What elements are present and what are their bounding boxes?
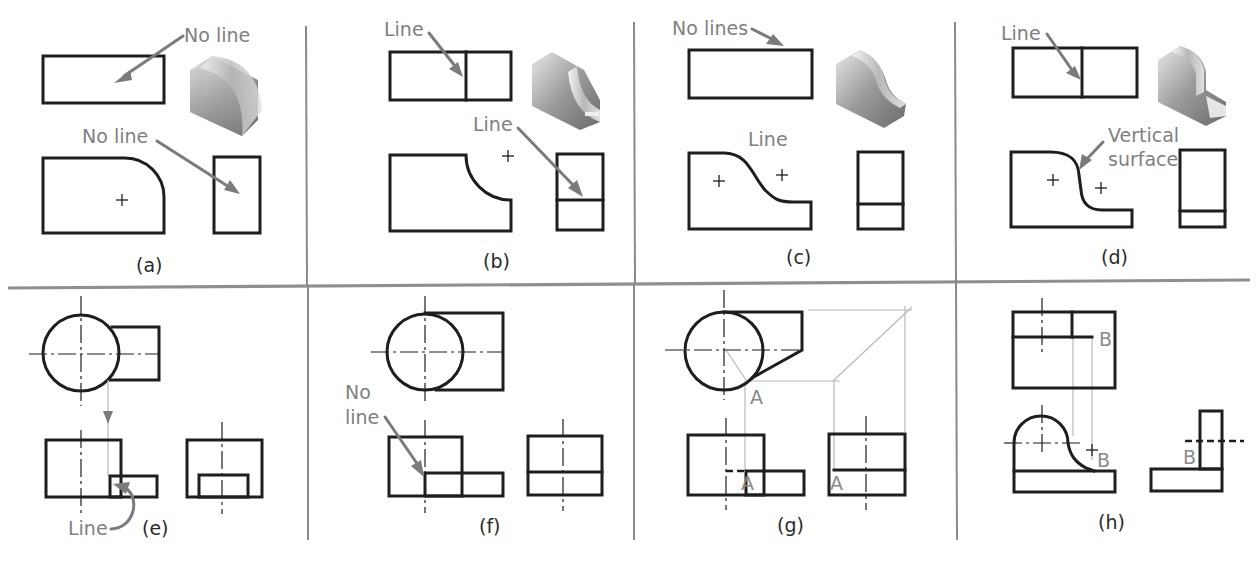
annotation-no-line: No line: [184, 24, 250, 46]
point-label-b: B: [1183, 446, 1196, 468]
leader-arrow: [1079, 142, 1103, 170]
side-view: [528, 436, 602, 495]
panel-e: Line (e): [29, 296, 262, 539]
leader-arrow: [1047, 34, 1081, 80]
front-view: [43, 158, 164, 233]
side-view: [214, 157, 260, 233]
side-view: [1180, 150, 1225, 227]
panel-c: No lines Line (c): [672, 17, 906, 268]
annotation-line: Line: [1001, 22, 1041, 44]
isometric-model: [836, 50, 906, 128]
leader-arrow: [114, 36, 183, 83]
annotation-no-line: No line: [82, 125, 148, 147]
top-view: [689, 50, 812, 98]
front-view-base: [746, 471, 804, 495]
annotation-surface: surface: [1108, 148, 1178, 170]
point-label-b: B: [1099, 328, 1112, 350]
top-view: [1013, 312, 1115, 388]
side-view-base: [1151, 469, 1222, 491]
annotation-no-lines: No lines: [672, 17, 748, 39]
annotation-line: Line: [473, 113, 513, 135]
horizontal-divider: [8, 280, 1250, 288]
projection-arrow: [103, 411, 113, 424]
panel-h: B B B (h): [1004, 298, 1244, 533]
center-mark: [1095, 182, 1107, 194]
annotation-line: line: [345, 406, 379, 428]
vertical-divider-2: [634, 22, 635, 283]
side-view-tab: [199, 475, 248, 497]
annotation-vertical: Vertical: [1108, 124, 1179, 146]
tangent-surfaces-figure: No line No line (a) Line Line: [0, 0, 1258, 570]
vertical-divider-3: [955, 22, 956, 281]
panel-caption: (e): [142, 517, 169, 539]
isometric-model: [532, 52, 600, 130]
curved-leader-arrow: [111, 482, 134, 529]
center-mark: [116, 194, 128, 206]
center-mark: [1047, 174, 1059, 186]
isometric-model: [1158, 46, 1226, 126]
leader-arrow: [518, 128, 583, 197]
front-view: [689, 153, 811, 229]
vertical-divider-1: [306, 26, 307, 285]
panel-caption: (f): [479, 515, 501, 537]
center-mark: [502, 150, 514, 162]
front-view-base: [1014, 471, 1115, 492]
top-view: [43, 56, 164, 103]
panel-caption: (a): [136, 254, 162, 276]
center-mark: [776, 169, 788, 181]
annotation-line: Line: [384, 18, 424, 40]
point-label-a: A: [750, 386, 763, 408]
panel-g: A A A (g): [665, 290, 912, 536]
point-label-a: A: [741, 472, 754, 494]
annotation-no: No: [345, 381, 371, 403]
panel-f: No line (f): [345, 296, 602, 537]
panel-caption: (d): [1101, 246, 1128, 268]
panel-caption: (g): [777, 514, 804, 536]
projection-lines: [1073, 338, 1092, 460]
front-view-base: [425, 473, 503, 496]
panel-d: Line Vertical surface (d): [1001, 22, 1226, 268]
panel-caption: (h): [1098, 511, 1125, 533]
annotation-line: Line: [68, 517, 108, 539]
panel-caption: (c): [786, 246, 811, 268]
leader-arrow: [752, 29, 784, 46]
point-label-a: A: [830, 472, 843, 494]
panel-caption: (b): [483, 250, 510, 272]
point-label-b: B: [1097, 449, 1110, 471]
leader-arrow: [157, 141, 240, 194]
leader-arrow: [385, 417, 424, 477]
panel-b: Line Line (b): [384, 18, 603, 272]
panel-a: No line No line (a): [43, 24, 262, 276]
leader-arrow: [429, 33, 463, 77]
front-view: [390, 155, 511, 231]
annotation-line: Line: [748, 128, 788, 150]
vertical-divider-6: [956, 281, 957, 540]
isometric-model: [190, 56, 262, 136]
side-view: [858, 152, 903, 229]
center-mark: [713, 175, 725, 187]
